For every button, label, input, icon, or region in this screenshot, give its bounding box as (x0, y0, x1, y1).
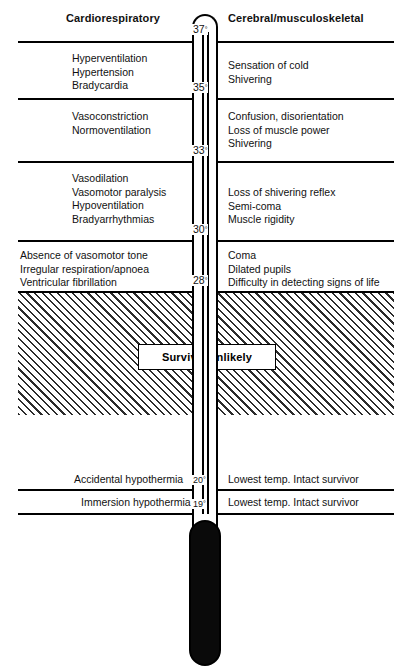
band-1-right-item-1: Sensation of cold (228, 59, 309, 73)
temperature-mark-33-unit: ° (205, 147, 208, 154)
temperature-mark-19-value: 19 (193, 499, 203, 509)
temperature-mark-30: 30° (192, 224, 208, 235)
band-2-right-item-1: Confusion, disorientation (228, 110, 344, 124)
band-2-left-list: Vasoconstriction Normoventilation (72, 110, 151, 137)
band-4-left-item-3: Ventricular fibrillation (20, 276, 149, 290)
band-1-left-item-2: Hypertension (72, 66, 147, 80)
temperature-mark-30-unit: ° (205, 226, 208, 233)
temperature-mark-19: 19° (192, 499, 206, 509)
band-1-right-list: Sensation of cold Shivering (228, 59, 309, 86)
footer-row-1-right-label: Lowest temp. Intact survivor (228, 473, 359, 486)
band-1-left-item-1: Hyperventilation (72, 52, 147, 66)
band-2-right-item-3: Shivering (228, 137, 344, 151)
temperature-mark-33-value: 33 (193, 144, 205, 156)
band-4-right-item-1: Coma (228, 249, 380, 263)
band-3-left-item-3: Hypoventilation (72, 199, 166, 213)
band-1-right-item-2: Shivering (228, 73, 309, 87)
band-2-right-list: Confusion, disorientation Loss of muscle… (228, 110, 344, 151)
temperature-mark-20-value: 20 (193, 475, 203, 485)
temperature-mark-20-unit: ° (203, 476, 206, 483)
temperature-mark-37: 37° (192, 24, 208, 35)
temperature-mark-37-value: 37 (193, 23, 205, 35)
footer-row-2-right-label: Lowest temp. Intact survivor (228, 496, 359, 509)
band-3-right-item-1: Loss of shivering reflex (228, 186, 335, 200)
temperature-mark-30-value: 30 (193, 223, 205, 235)
band-3-right-item-2: Semi-coma (228, 200, 335, 214)
band-3-left-item-1: Vasodilation (72, 172, 166, 186)
temperature-mark-28-value: 28 (193, 274, 205, 286)
band-2-left-item-1: Vasoconstriction (72, 110, 151, 124)
footer-row-1-left-label: Accidental hypothermia (74, 473, 183, 486)
band-4-right-list: Coma Dilated pupils Difficulty in detect… (228, 249, 380, 290)
band-3-left-item-2: Vasomotor paralysis (72, 186, 166, 200)
thermometer-mercury-column (202, 32, 209, 542)
band-4-left-item-1: Absence of vasomotor tone (20, 249, 149, 263)
band-3-right-list: Loss of shivering reflex Semi-coma Muscl… (228, 186, 335, 227)
temperature-mark-35-value: 35 (193, 81, 205, 93)
column-header-cardiorespiratory: Cardiorespiratory (66, 12, 160, 25)
band-3-left-item-4: Bradyarrhythmias (72, 213, 166, 227)
temperature-mark-33: 33° (192, 145, 208, 156)
temperature-mark-20: 20° (192, 475, 206, 485)
band-4-left-list: Absence of vasomotor tone Irregular resp… (20, 249, 149, 290)
thermometer-bulb (189, 520, 221, 666)
footer-row-2-left-label: Immersion hypothermia (81, 496, 191, 509)
hypothermia-thermometer-diagram: Cardiorespiratory Cerebral/musculoskelet… (0, 0, 412, 670)
temperature-mark-37-unit: ° (205, 26, 208, 33)
temperature-mark-28-unit: ° (205, 277, 208, 284)
temperature-mark-19-unit: ° (203, 500, 206, 507)
temperature-mark-28: 28° (192, 275, 208, 286)
band-4-right-item-3: Difficulty in detecting signs of life (228, 276, 380, 290)
temperature-mark-35-unit: ° (205, 84, 208, 91)
band-3-right-item-3: Muscle rigidity (228, 213, 335, 227)
band-2-right-item-2: Loss of muscle power (228, 124, 344, 138)
temperature-mark-35: 35° (192, 82, 208, 93)
band-4-left-item-2: Irregular respiration/apnoea (20, 263, 149, 277)
band-4-right-item-2: Dilated pupils (228, 263, 380, 277)
thermometer (188, 14, 224, 658)
band-3-left-list: Vasodilation Vasomotor paralysis Hypoven… (72, 172, 166, 226)
band-2-left-item-2: Normoventilation (72, 124, 151, 138)
column-header-cerebral-musculoskeletal: Cerebral/musculoskeletal (228, 12, 364, 25)
band-1-left-item-3: Bradycardia (72, 79, 147, 93)
band-1-left-list: Hyperventilation Hypertension Bradycardi… (72, 52, 147, 93)
